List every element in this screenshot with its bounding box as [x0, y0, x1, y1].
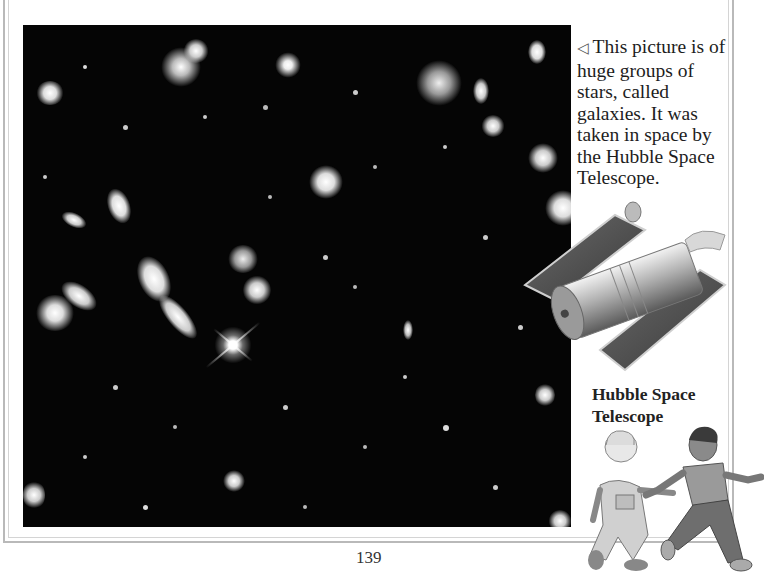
telescope-label-line2: Telescope — [592, 405, 732, 427]
page-number: 139 — [356, 548, 382, 568]
galaxy — [36, 81, 64, 105]
star — [83, 65, 87, 69]
galaxy — [473, 78, 489, 104]
galaxy — [528, 143, 558, 173]
galaxy — [416, 60, 462, 106]
star — [123, 125, 128, 130]
star — [443, 145, 447, 149]
girl-figure-icon — [588, 431, 673, 571]
galaxy-photo — [23, 25, 571, 527]
telescope-label: Hubble Space Telescope — [592, 383, 732, 427]
star — [113, 385, 118, 390]
galaxy — [23, 480, 45, 510]
galaxy — [548, 510, 571, 527]
galaxy — [403, 320, 413, 340]
galaxy — [223, 470, 245, 492]
galaxy — [535, 383, 555, 407]
star — [283, 405, 288, 410]
star — [43, 175, 47, 179]
boy-figure-icon — [646, 427, 761, 571]
star — [353, 285, 357, 289]
galaxy — [243, 275, 271, 305]
star-bright — [273, 50, 303, 80]
star — [353, 90, 358, 95]
galaxy — [35, 295, 75, 331]
galaxy — [528, 40, 546, 64]
two-children-running-illustration — [578, 425, 764, 577]
photo-caption: ◁This picture is of huge groups of stars… — [577, 36, 727, 189]
star — [483, 235, 488, 240]
galaxy — [103, 185, 136, 226]
star — [263, 105, 268, 110]
star — [203, 115, 207, 119]
caption-text: This picture is of huge groups of stars,… — [577, 36, 725, 188]
star — [83, 455, 87, 459]
galaxy — [59, 208, 88, 232]
star — [268, 195, 272, 199]
galaxy — [183, 39, 209, 63]
star — [493, 485, 498, 490]
star — [363, 445, 367, 449]
star — [403, 375, 407, 379]
hubble-telescope-illustration — [520, 200, 735, 380]
galaxy — [228, 245, 258, 273]
galaxy — [309, 165, 343, 199]
star — [173, 425, 177, 429]
galaxy — [481, 115, 505, 137]
pointer-left-icon: ◁ — [577, 40, 589, 56]
telescope-label-line1: Hubble Space — [592, 383, 732, 405]
star — [303, 505, 307, 509]
star — [373, 165, 377, 169]
galaxy — [153, 290, 203, 344]
star — [443, 425, 449, 431]
star — [143, 505, 148, 510]
star — [323, 255, 328, 260]
